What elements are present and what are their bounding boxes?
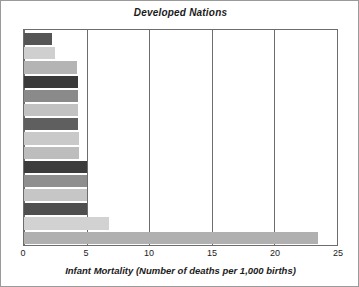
bar-canada[interactable] — [24, 175, 87, 187]
bar-row — [24, 131, 337, 145]
x-tick-label-25: 25 — [333, 248, 343, 258]
bar-track — [24, 46, 337, 60]
bar-japan[interactable] — [24, 33, 52, 45]
bar-united-states[interactable] — [24, 217, 109, 229]
bar-united-kingdom[interactable] — [24, 203, 87, 215]
bar-track — [24, 60, 337, 74]
bar-ireland[interactable] — [24, 90, 78, 102]
bar-track — [24, 231, 337, 245]
bar-track — [24, 188, 337, 202]
bar-australia[interactable] — [24, 161, 87, 173]
bar-row — [24, 46, 337, 60]
x-tick-label-15: 15 — [207, 248, 217, 258]
x-tick-label-20: 20 — [270, 248, 280, 258]
x-axis-title: Infant Mortality (Number of deaths per 1… — [1, 265, 359, 276]
bar-row — [24, 89, 337, 103]
bar-track — [24, 216, 337, 230]
bar-track — [24, 32, 337, 46]
bar-row — [24, 60, 337, 74]
bar-track — [24, 174, 337, 188]
bar-track — [24, 160, 337, 174]
bar-row — [24, 146, 337, 160]
bar-new-zealand[interactable] — [24, 189, 87, 201]
bar-row — [24, 75, 337, 89]
chart-title: Developed Nations — [1, 7, 359, 18]
bar-track — [24, 117, 337, 131]
bar-turkey[interactable] — [24, 232, 318, 244]
bar-track — [24, 131, 337, 145]
x-tick-label-5: 5 — [83, 248, 88, 258]
gridline-25 — [337, 30, 338, 245]
bar-row — [24, 160, 337, 174]
bar-rows — [24, 32, 337, 245]
chart-figure: Developed Nations JapanSwedenFranceGerma… — [0, 0, 359, 287]
bar-track — [24, 202, 337, 216]
bar-row — [24, 188, 337, 202]
bar-row — [24, 32, 337, 46]
x-axis-ticks: 0510152025 — [23, 248, 338, 262]
bar-netherlands[interactable] — [24, 132, 79, 144]
bar-row — [24, 103, 337, 117]
x-tick-label-10: 10 — [144, 248, 154, 258]
bar-italy[interactable] — [24, 118, 78, 130]
bar-row — [24, 202, 337, 216]
x-tick-label-0: 0 — [20, 248, 25, 258]
bar-row — [24, 216, 337, 230]
bar-track — [24, 103, 337, 117]
bar-row — [24, 117, 337, 131]
bar-germany[interactable] — [24, 76, 78, 88]
bar-track — [24, 75, 337, 89]
bar-sweden[interactable] — [24, 47, 55, 59]
bar-track — [24, 146, 337, 160]
plot-area — [23, 29, 338, 246]
bar-spain[interactable] — [24, 147, 79, 159]
bar-france[interactable] — [24, 61, 77, 73]
bar-track — [24, 89, 337, 103]
bar-israel[interactable] — [24, 104, 78, 116]
bar-row — [24, 174, 337, 188]
bar-row — [24, 231, 337, 245]
